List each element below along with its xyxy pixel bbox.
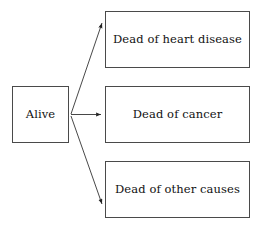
node-dead-of-heart-disease[interactable]: Dead of heart disease (105, 11, 250, 68)
node-dead-of-cancer[interactable]: Dead of cancer (105, 86, 250, 143)
node-dead-of-heart-disease-label: Dead of heart disease (113, 33, 242, 46)
node-alive[interactable]: Alive (12, 86, 69, 143)
node-dead-of-other-causes-label: Dead of other causes (115, 183, 240, 196)
node-dead-of-cancer-label: Dead of cancer (133, 108, 223, 121)
edge-alive-to-heart (71, 23, 102, 114)
edge-alive-to-other (71, 116, 102, 204)
diagram-canvas: Alive Dead of heart disease Dead of canc… (0, 0, 263, 230)
node-alive-label: Alive (26, 108, 55, 121)
node-dead-of-other-causes[interactable]: Dead of other causes (105, 161, 250, 218)
